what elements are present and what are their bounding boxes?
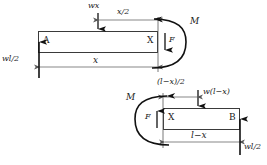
left-moment-label: M bbox=[190, 17, 199, 26]
right-reaction-label: wl/2 bbox=[244, 143, 261, 151]
right-moment-label: M bbox=[126, 93, 135, 102]
left-shear-label: F bbox=[169, 36, 175, 44]
left-node-start-label: A bbox=[43, 36, 50, 45]
left-node-cut-label: X bbox=[147, 36, 153, 45]
right-span-label: l−x bbox=[191, 131, 207, 140]
right-node-end-label: B bbox=[229, 113, 236, 122]
left-reaction-label: wl/2 bbox=[2, 55, 19, 63]
left-span-label: x bbox=[93, 56, 98, 65]
right-load-arm-label: (l−x)/2 bbox=[157, 78, 185, 86]
right-load-label: w(l−x) bbox=[203, 88, 230, 96]
left-beam-body bbox=[39, 32, 158, 53]
right-shear-label: F bbox=[145, 113, 151, 121]
diagram-canvas bbox=[0, 0, 267, 165]
beam-free-body-diagram: A X wx x/2 x wl/2 M F X B w(l−x) (l−x)/2… bbox=[0, 0, 267, 165]
left-load-label: wx bbox=[88, 2, 99, 10]
right-node-cut-label: X bbox=[168, 113, 174, 122]
left-load-arm-label: x/2 bbox=[117, 8, 129, 16]
